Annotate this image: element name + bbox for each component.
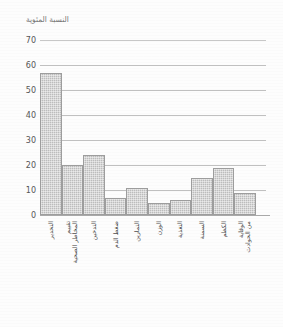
y-tick-label-40: 40 — [26, 111, 36, 120]
x-axis-label: التدخين — [91, 221, 98, 240]
bar — [148, 203, 170, 216]
bar — [83, 155, 105, 215]
bar — [126, 188, 148, 216]
x-label-slot: الوزن — [148, 218, 170, 323]
bar — [191, 178, 213, 216]
bar-slot — [234, 38, 256, 215]
x-axis-label: التغذية — [177, 221, 184, 238]
chart-axis-title: النسبة المئوية — [26, 15, 69, 24]
bar-slot — [170, 38, 192, 215]
bar-slot — [191, 38, 213, 215]
bar-slot — [105, 38, 127, 215]
y-axis-tick-labels: 010203040506070 — [0, 38, 40, 215]
x-label-slot: التدخين — [83, 218, 105, 323]
x-axis-label: التمارين — [134, 221, 141, 242]
x-axis-label: الكظم — [220, 221, 227, 238]
x-axis-label: السمنة — [199, 221, 206, 239]
bar — [170, 200, 192, 215]
x-label-slot: التغذية — [170, 218, 192, 323]
x-axis-label: الوزن — [156, 221, 163, 236]
y-tick-label-10: 10 — [26, 186, 36, 195]
bar — [213, 168, 235, 216]
x-label-slot: التمارين — [126, 218, 148, 323]
bars-group — [40, 38, 266, 215]
y-tick-label-70: 70 — [26, 36, 36, 45]
x-label-slot: التخدير — [40, 218, 62, 323]
x-axis-label: الوقايةمن الحوادث — [239, 221, 252, 253]
x-label-slot: الكظم — [213, 218, 235, 323]
bar-chart-figure: النسبة المئوية 010203040506070 التخديرتق… — [0, 0, 283, 327]
x-label-slot: السمنة — [191, 218, 213, 323]
bar — [234, 193, 256, 216]
x-axis-label: ضغط الدم — [112, 221, 119, 248]
bar — [105, 198, 127, 216]
y-tick-label-0: 0 — [31, 211, 36, 220]
bar — [40, 73, 62, 216]
bar-slot — [83, 38, 105, 215]
x-axis-label: تقييمالمخاطر الصحية — [66, 221, 79, 263]
gridline-0 — [40, 215, 270, 216]
plot-area — [40, 38, 266, 215]
y-tick-label-20: 20 — [26, 161, 36, 170]
x-label-slot: الوقايةمن الحوادث — [234, 218, 256, 323]
x-axis-category-labels: التخديرتقييمالمخاطر الصحيةالتدخينضغط الد… — [40, 218, 266, 323]
y-tick-label-30: 30 — [26, 136, 36, 145]
bar-slot — [126, 38, 148, 215]
bar-slot — [40, 38, 62, 215]
bar-slot — [213, 38, 235, 215]
y-tick-label-60: 60 — [26, 61, 36, 70]
bar-slot — [62, 38, 84, 215]
bar-slot — [148, 38, 170, 215]
y-tick-label-50: 50 — [26, 86, 36, 95]
x-label-slot: تقييمالمخاطر الصحية — [62, 218, 84, 323]
x-label-slot: ضغط الدم — [105, 218, 127, 323]
x-axis-label: التخدير — [48, 221, 55, 239]
bar — [62, 165, 84, 215]
